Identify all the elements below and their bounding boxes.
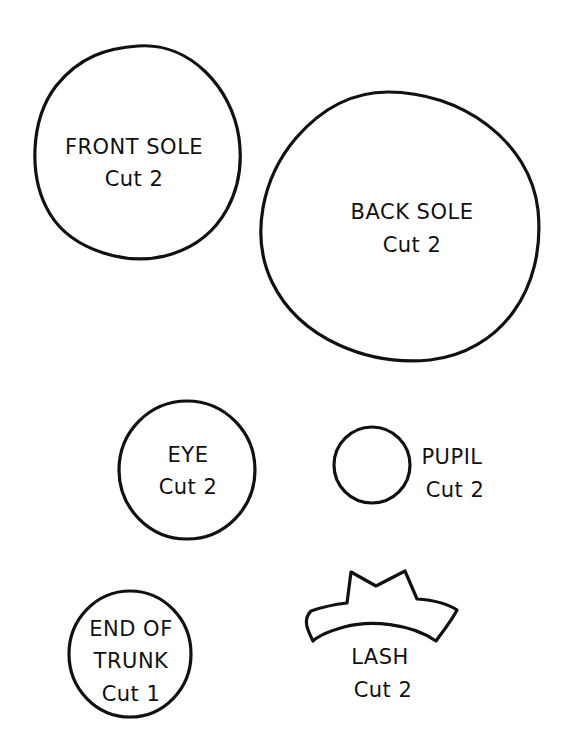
pupil-outline [334, 427, 410, 503]
piece-back-sole: BACK SOLE Cut 2 [261, 92, 539, 361]
back-sole-outline [261, 92, 539, 361]
eye-cut: Cut 2 [159, 475, 218, 499]
piece-lash: LASH Cut 2 [306, 571, 457, 702]
pupil-cut: Cut 2 [426, 478, 485, 502]
end-of-trunk-cut: Cut 1 [102, 682, 161, 706]
pupil-title: PUPIL [421, 445, 482, 469]
lash-outline [306, 571, 457, 641]
back-sole-title: BACK SOLE [351, 200, 474, 224]
piece-front-sole: FRONT SOLE Cut 2 [35, 46, 240, 259]
front-sole-title: FRONT SOLE [65, 135, 203, 159]
end-of-trunk-title-2: TRUNK [93, 649, 169, 673]
end-of-trunk-title-1: END OF [89, 617, 172, 641]
pattern-sheet: FRONT SOLE Cut 2 BACK SOLE Cut 2 EYE Cut… [0, 0, 566, 736]
back-sole-cut: Cut 2 [383, 233, 442, 257]
eye-title: EYE [168, 443, 209, 467]
lash-title: LASH [351, 645, 409, 669]
piece-end-of-trunk: END OF TRUNK Cut 1 [69, 591, 191, 717]
eye-outline [119, 401, 255, 539]
lash-cut: Cut 2 [354, 678, 413, 702]
piece-eye: EYE Cut 2 [119, 401, 255, 539]
front-sole-cut: Cut 2 [105, 167, 164, 191]
piece-pupil: PUPIL Cut 2 [334, 427, 484, 503]
